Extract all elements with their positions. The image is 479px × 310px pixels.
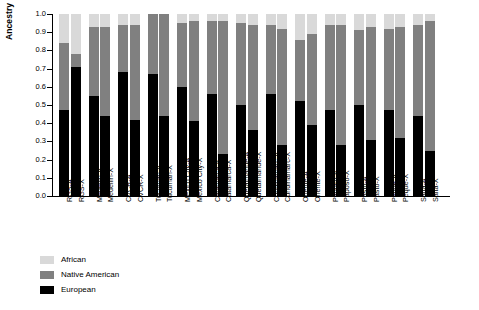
segment-african bbox=[189, 14, 199, 21]
legend-label: African bbox=[61, 256, 86, 264]
segment-african bbox=[277, 14, 287, 29]
segment-native-american bbox=[148, 14, 158, 74]
segment-native-american bbox=[295, 40, 305, 102]
segment-native-american bbox=[366, 27, 376, 140]
x-tick-label: CVCR-A bbox=[125, 174, 132, 202]
x-tick-label: RGS-A bbox=[66, 179, 73, 202]
segment-african bbox=[307, 14, 317, 34]
bar-paposo-x bbox=[336, 14, 346, 196]
y-tick-mark bbox=[47, 196, 52, 197]
x-tick-label: Pasto-A bbox=[361, 176, 368, 202]
legend-label: Native American bbox=[61, 271, 119, 279]
x-tick-label: Salta-X bbox=[432, 178, 439, 202]
y-tick-label: 0.8 bbox=[22, 46, 46, 54]
x-tick-label: Tucuman-A bbox=[155, 165, 162, 202]
segment-african bbox=[236, 14, 246, 23]
bar-cvcr-a bbox=[118, 14, 128, 196]
y-tick-label: 0.7 bbox=[22, 65, 46, 73]
y-tick-label: 0.4 bbox=[22, 119, 46, 127]
legend-swatch-icon bbox=[40, 256, 54, 264]
y-tick-mark bbox=[47, 50, 52, 51]
y-tick-mark bbox=[47, 105, 52, 106]
segment-native-american bbox=[336, 25, 346, 145]
bar-pasto-x bbox=[366, 14, 376, 196]
ancestry-proportion-chart: Ancestry Proportion 0.00.10.20.30.40.50.… bbox=[0, 0, 479, 310]
segment-native-american bbox=[413, 25, 423, 116]
y-tick-label: 1.0 bbox=[22, 10, 46, 18]
y-tick-label: 0.6 bbox=[22, 83, 46, 91]
segment-native-american bbox=[248, 25, 258, 131]
y-tick-label: 0.0 bbox=[22, 192, 46, 200]
y-tick-label: 0.3 bbox=[22, 137, 46, 145]
x-tick-label: Medellin-X bbox=[107, 168, 114, 202]
segment-native-american bbox=[218, 21, 228, 154]
segment-african bbox=[59, 14, 69, 43]
y-tick-mark bbox=[47, 87, 52, 88]
bar-rgs-x bbox=[71, 14, 81, 196]
y-tick-label: 0.5 bbox=[22, 101, 46, 109]
bar-salta-a bbox=[413, 14, 423, 196]
x-tick-label: Cundinamarc-A bbox=[273, 152, 280, 202]
segment-native-american bbox=[236, 23, 246, 105]
segment-african bbox=[177, 14, 187, 23]
segment-native-american bbox=[325, 25, 335, 111]
x-tick-label: Oriente-X bbox=[314, 171, 321, 202]
segment-native-american bbox=[71, 54, 81, 67]
segment-native-american bbox=[354, 30, 364, 105]
segment-african bbox=[71, 14, 81, 54]
segment-native-american bbox=[89, 27, 99, 96]
segment-native-american bbox=[130, 25, 140, 120]
y-tick-label: 0.9 bbox=[22, 28, 46, 36]
segment-african bbox=[118, 14, 128, 25]
segment-african bbox=[325, 14, 335, 25]
segment-native-american bbox=[59, 43, 69, 110]
x-tick-label: RGS-X bbox=[78, 179, 85, 202]
legend-item-european: European bbox=[40, 282, 119, 297]
y-tick-mark bbox=[47, 32, 52, 33]
x-tick-label: Cundinamarc-X bbox=[284, 152, 291, 202]
x-tick-label: Mexico City-A bbox=[184, 158, 191, 202]
legend: AfricanNative AmericanEuropean bbox=[40, 252, 119, 297]
x-tick-label: Paposo-X bbox=[343, 170, 350, 202]
x-tick-label: Catamarca-X bbox=[225, 160, 232, 202]
segment-african bbox=[354, 14, 364, 30]
x-tick-label: CVCR-X bbox=[137, 174, 144, 202]
x-tick-label: Mexico City-X bbox=[196, 158, 203, 202]
bar-oriente-a bbox=[295, 14, 305, 196]
segment-native-american bbox=[395, 27, 405, 138]
segment-african bbox=[89, 14, 99, 27]
segment-native-american bbox=[425, 21, 435, 150]
y-tick-mark bbox=[47, 14, 52, 15]
y-tick-mark bbox=[47, 160, 52, 161]
segment-african bbox=[295, 14, 305, 39]
bar-peque-a bbox=[384, 14, 394, 196]
x-tick-label: Catamarca-A bbox=[214, 160, 221, 202]
x-tick-label: Peque-X bbox=[402, 174, 409, 202]
segment-native-american bbox=[207, 21, 217, 94]
x-tick-label: Quetalmahue-X bbox=[255, 152, 262, 202]
x-tick-label: Peque-A bbox=[391, 174, 398, 202]
bar-salta-x bbox=[425, 14, 435, 196]
segment-native-american bbox=[159, 14, 169, 116]
segment-african bbox=[100, 14, 110, 27]
y-axis-title: Ancestry Proportion bbox=[4, 0, 14, 40]
segment-native-american bbox=[189, 21, 199, 121]
segment-native-american bbox=[177, 23, 187, 87]
segment-african bbox=[336, 14, 346, 25]
x-tick-label: Medellin-A bbox=[96, 168, 103, 202]
legend-label: European bbox=[61, 286, 96, 294]
x-tick-label: Paposo-A bbox=[332, 170, 339, 202]
bar-pasto-a bbox=[354, 14, 364, 196]
segment-native-american bbox=[384, 29, 394, 111]
y-tick-mark bbox=[47, 141, 52, 142]
bar-cvcr-x bbox=[130, 14, 140, 196]
x-tick-label: Quetalmahue-A bbox=[243, 152, 250, 202]
segment-native-american bbox=[307, 34, 317, 125]
segment-native-american bbox=[277, 29, 287, 145]
segment-african bbox=[207, 14, 217, 21]
legend-swatch-icon bbox=[40, 271, 54, 279]
segment-african bbox=[425, 14, 435, 21]
x-tick-label: Pasto-X bbox=[373, 176, 380, 202]
bar-rgs-a bbox=[59, 14, 69, 196]
x-tick-label: Oriente-A bbox=[302, 171, 309, 202]
